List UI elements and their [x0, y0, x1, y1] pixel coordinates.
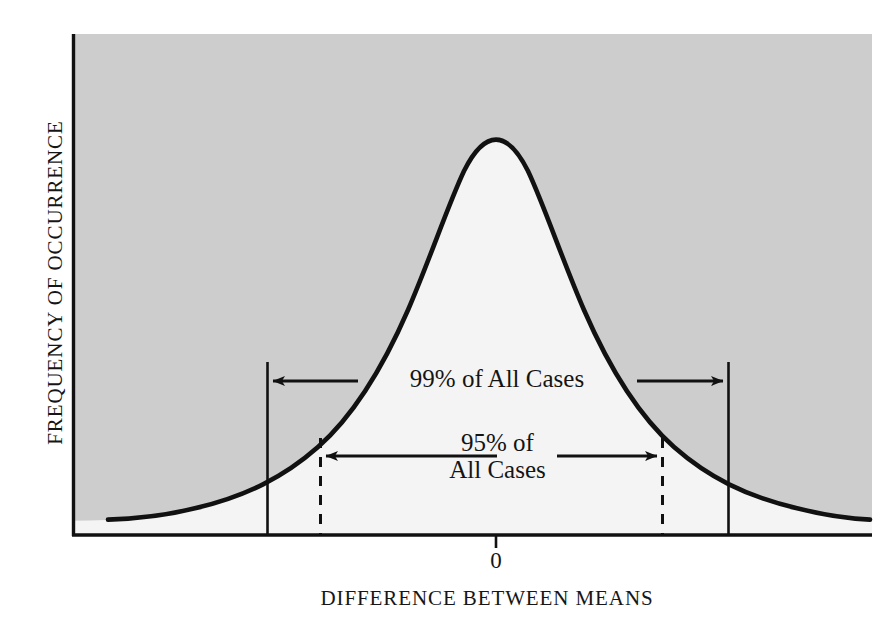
chart-canvas [0, 0, 892, 636]
interval-99-label: 99% of All Cases [362, 366, 632, 393]
normal-distribution-figure: FREQUENCY OF OCCURRENCE 0 DIFFERENCE BET… [0, 0, 892, 636]
x-axis-tick-label-zero: 0 [470, 548, 522, 574]
interval-95-label: 95% of All Cases [425, 430, 570, 483]
interval-95-label-line2: All Cases [425, 457, 570, 484]
interval-95-label-line1: 95% of [461, 429, 534, 456]
x-axis-title: DIFFERENCE BETWEEN MEANS [187, 586, 787, 611]
y-axis-title: FREQUENCY OF OCCURRENCE [43, 33, 68, 533]
